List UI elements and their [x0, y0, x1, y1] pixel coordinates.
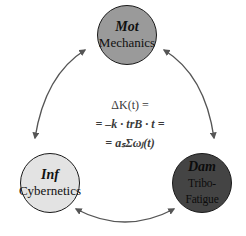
node-abbr: Dam	[188, 159, 216, 175]
node-tribo-fatigue: Dam Tribo-Fatigue	[172, 153, 232, 213]
arrow-mot-inf	[35, 50, 85, 138]
node-label: Cybernetics	[19, 183, 81, 199]
node-abbr: Mot	[115, 19, 138, 35]
arrow-inf-dam	[76, 209, 174, 222]
formula-line-1: ΔK(t) =	[84, 96, 176, 115]
central-formula: ΔK(t) = = –k · trB · t = = aₛΣωⱼ(t)	[84, 96, 176, 153]
node-label: Mechanics	[99, 35, 155, 51]
node-mechanics: Mot Mechanics	[97, 5, 157, 65]
formula-line-3: = aₛΣωⱼ(t)	[84, 134, 176, 153]
node-label: Tribo-Fatigue	[173, 175, 231, 207]
formula-line-2: = –k · trB · t =	[84, 115, 176, 134]
node-abbr: Inf	[41, 167, 59, 183]
node-cybernetics: Inf Cybernetics	[20, 153, 80, 213]
